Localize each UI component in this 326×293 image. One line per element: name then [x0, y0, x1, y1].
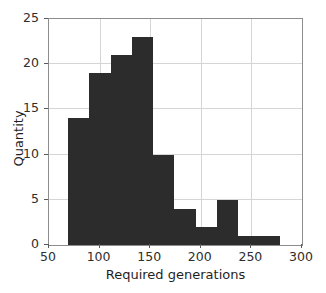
- histogram-figure: 0510152025 50100150200250300 Required ge…: [0, 0, 326, 293]
- y-tick-label: 25: [0, 12, 39, 25]
- x-tick-mark: [301, 244, 302, 248]
- x-tick-mark: [99, 244, 100, 248]
- y-tick-label: 0: [0, 238, 39, 251]
- histogram-bar: [68, 118, 89, 245]
- histogram-bar: [258, 236, 279, 245]
- histogram-bar: [174, 209, 195, 245]
- histogram-bar: [217, 200, 238, 245]
- x-tick-mark: [250, 244, 251, 248]
- histogram-bar: [132, 37, 153, 245]
- y-tick-label: 5: [0, 193, 39, 206]
- plot-area: [48, 18, 303, 246]
- x-tick-label: 150: [137, 251, 161, 264]
- y-tick-label: 20: [0, 57, 39, 70]
- y-axis-title: Quantity: [12, 84, 25, 194]
- y-tick-mark: [44, 199, 48, 200]
- histogram-bar: [111, 55, 132, 245]
- x-tick-label: 50: [40, 251, 56, 264]
- x-axis-title: Required generations: [48, 268, 303, 281]
- x-tick-label: 200: [188, 251, 212, 264]
- histogram-bar: [196, 227, 217, 245]
- histogram-bar: [238, 236, 258, 245]
- y-tick-mark: [44, 18, 48, 19]
- x-tick-mark: [149, 244, 150, 248]
- x-tick-label: 250: [238, 251, 262, 264]
- histogram-bar: [89, 73, 110, 245]
- x-tick-label: 300: [289, 251, 313, 264]
- x-tick-mark: [48, 244, 49, 248]
- y-tick-mark: [44, 63, 48, 64]
- bar-series: [49, 19, 302, 245]
- y-tick-mark: [44, 108, 48, 109]
- x-tick-mark: [200, 244, 201, 248]
- histogram-bar: [153, 155, 174, 245]
- y-tick-mark: [44, 154, 48, 155]
- x-tick-label: 100: [87, 251, 111, 264]
